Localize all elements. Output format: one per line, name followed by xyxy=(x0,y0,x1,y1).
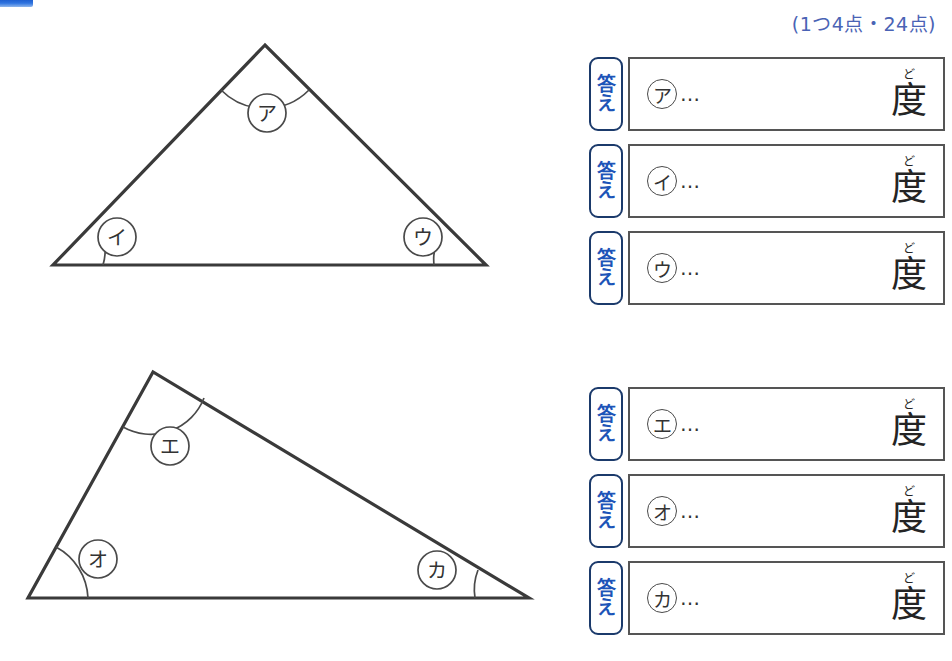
answer-unit-kanji-u: 度 xyxy=(891,257,927,293)
score-note: (1つ4点・24点) xyxy=(792,9,936,36)
marker-dots-o: … xyxy=(680,499,701,523)
answer-unit-kanji-ka: 度 xyxy=(891,587,927,623)
answer-tag-i-bottom: え xyxy=(597,181,616,200)
answer-row-e: 答 え エ … ど 度 xyxy=(589,387,945,461)
answer-row-o: 答 え オ … ど 度 xyxy=(589,474,945,548)
answer-unit-kanji-a: 度 xyxy=(891,83,927,119)
answer-box-i[interactable]: イ … ど 度 xyxy=(628,144,945,218)
angle-label-i-text: イ xyxy=(107,226,127,250)
answer-tag-ka-bottom: え xyxy=(597,598,616,617)
answer-unit-a: ど 度 xyxy=(891,69,927,119)
answer-tag-a: 答 え xyxy=(589,57,623,131)
marker-circle-i: イ xyxy=(647,166,677,196)
angle-label-a-text: ア xyxy=(257,102,277,126)
answer-unit-o: ど 度 xyxy=(891,486,927,536)
answer-tag-ka: 答 え xyxy=(589,561,623,635)
answer-unit-kanji-i: 度 xyxy=(891,170,927,206)
answer-tag-i: 答 え xyxy=(589,144,623,218)
angle-label-i: イ xyxy=(98,218,136,256)
answer-tag-o-bottom: え xyxy=(597,511,616,530)
answer-tag-e: 答 え xyxy=(589,387,623,461)
marker-circle-a: ア xyxy=(647,79,677,109)
answer-row-i: 答 え イ … ど 度 xyxy=(589,144,945,218)
angle-label-u: ウ xyxy=(404,218,442,256)
triangle-1: ア イ ウ xyxy=(53,45,486,265)
marker-circle-u: ウ xyxy=(647,253,677,283)
figures-panel: ア イ ウ エ xyxy=(0,0,560,661)
answer-tag-a-bottom: え xyxy=(597,94,616,113)
answer-box-ka[interactable]: カ … ど 度 xyxy=(628,561,945,635)
marker-dots-ka: … xyxy=(680,586,701,610)
answer-box-u[interactable]: ウ … ど 度 xyxy=(628,231,945,305)
answer-marker-o: オ … xyxy=(647,496,701,526)
answer-unit-kanji-o: 度 xyxy=(891,500,927,536)
answer-unit-ka: ど 度 xyxy=(891,573,927,623)
marker-dots-i: … xyxy=(680,169,701,193)
answer-tag-o: 答 え xyxy=(589,474,623,548)
answer-box-a[interactable]: ア … ど 度 xyxy=(628,57,945,131)
answer-marker-ka: カ … xyxy=(647,583,701,613)
answer-row-u: 答 え ウ … ど 度 xyxy=(589,231,945,305)
answer-marker-i: イ … xyxy=(647,166,701,196)
answer-box-o[interactable]: オ … ど 度 xyxy=(628,474,945,548)
answer-row-a: 答 え ア … ど 度 xyxy=(589,57,945,131)
angle-label-ka-text: カ xyxy=(427,559,447,583)
answer-tag-u-bottom: え xyxy=(597,268,616,287)
triangle-2: エ オ カ xyxy=(28,372,529,598)
triangle-2-angle-arc-ka xyxy=(474,570,478,598)
marker-circle-e: エ xyxy=(647,409,677,439)
answer-box-e[interactable]: エ … ど 度 xyxy=(628,387,945,461)
answer-unit-kanji-e: 度 xyxy=(891,413,927,449)
answer-marker-a: ア … xyxy=(647,79,701,109)
marker-dots-a: … xyxy=(680,82,701,106)
angle-label-o-text: オ xyxy=(88,548,108,572)
answer-marker-u: ウ … xyxy=(647,253,701,283)
angle-label-o: オ xyxy=(79,540,117,578)
answer-tag-u: 答 え xyxy=(589,231,623,305)
angle-label-e: エ xyxy=(151,427,189,465)
answer-marker-e: エ … xyxy=(647,409,701,439)
marker-circle-o: オ xyxy=(647,496,677,526)
angle-label-a: ア xyxy=(248,94,286,132)
marker-circle-ka: カ xyxy=(647,583,677,613)
marker-dots-u: … xyxy=(680,256,701,280)
answer-unit-i: ど 度 xyxy=(891,156,927,206)
answer-unit-u: ど 度 xyxy=(891,243,927,293)
marker-dots-e: … xyxy=(680,412,701,436)
answer-row-ka: 答 え カ … ど 度 xyxy=(589,561,945,635)
angle-label-e-text: エ xyxy=(160,435,180,459)
answer-tag-e-bottom: え xyxy=(597,424,616,443)
angle-label-u-text: ウ xyxy=(413,226,433,250)
angle-label-ka: カ xyxy=(418,551,456,589)
answer-unit-e: ど 度 xyxy=(891,399,927,449)
